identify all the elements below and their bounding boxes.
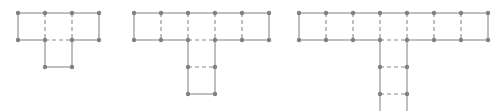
lattice-node (186, 92, 190, 96)
lattice-node (324, 38, 328, 42)
lattice-node (378, 65, 382, 69)
lattice-node (405, 92, 409, 96)
lattice-node (16, 11, 20, 15)
lattice-node (486, 11, 490, 15)
lattice-node (378, 38, 382, 42)
lattice-node (240, 11, 244, 15)
lattice-node (213, 11, 217, 15)
lattice-node (378, 11, 382, 15)
lattice-node (432, 11, 436, 15)
lattice-node (297, 38, 301, 42)
lattice-node (432, 38, 436, 42)
lattice-node (324, 11, 328, 15)
lattice-node (459, 11, 463, 15)
lattice-node (70, 65, 74, 69)
lattice-node (186, 38, 190, 42)
lattice-node (351, 38, 355, 42)
lattice-node (240, 38, 244, 42)
lattice-node (43, 65, 47, 69)
lattice-node (405, 11, 409, 15)
lattice-node (43, 38, 47, 42)
lattice-node (267, 11, 271, 15)
figure-background (0, 0, 493, 111)
lattice-node (405, 65, 409, 69)
lattice-node (186, 11, 190, 15)
lattice-node (159, 38, 163, 42)
lattice-node (459, 38, 463, 42)
lattice-node (16, 38, 20, 42)
lattice-node (213, 92, 217, 96)
lattice-node (186, 65, 190, 69)
lattice-node (70, 38, 74, 42)
lattice-node (267, 38, 271, 42)
lattice-node (97, 38, 101, 42)
lattice-node (351, 11, 355, 15)
polyomino-figure-canvas (0, 0, 493, 111)
lattice-node (486, 38, 490, 42)
lattice-node (297, 11, 301, 15)
lattice-node (132, 11, 136, 15)
lattice-node (132, 38, 136, 42)
lattice-node (159, 11, 163, 15)
lattice-node (378, 92, 382, 96)
lattice-node (43, 11, 47, 15)
lattice-node (213, 65, 217, 69)
lattice-node (213, 38, 217, 42)
lattice-node (405, 38, 409, 42)
lattice-node (97, 11, 101, 15)
lattice-node (70, 11, 74, 15)
